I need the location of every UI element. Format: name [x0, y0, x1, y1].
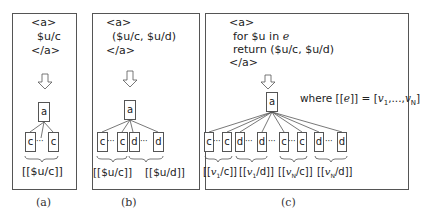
tree-node-root: a [38, 102, 50, 122]
down-arrow-icon [123, 71, 137, 87]
code-text: for $u in [233, 30, 283, 43]
code-line: $u/c [37, 31, 61, 43]
code-line: ($u/c, $u/d) [112, 31, 176, 43]
ellipsis: ··· [107, 136, 115, 148]
tree-node: d [337, 132, 347, 152]
code-line: <a> [31, 17, 56, 29]
tree-node: d [257, 132, 267, 152]
tree-node: d [129, 132, 140, 152]
tree-node: d [235, 132, 245, 152]
code-line: </a> [229, 57, 258, 69]
caption-a: (a) [36, 196, 51, 209]
code-line: return ($u/c, $u/d) [233, 44, 334, 56]
tree-node: c [48, 132, 59, 152]
down-arrow-icon [261, 75, 275, 89]
code-variable: e [283, 30, 290, 43]
down-arrow-icon [38, 74, 52, 89]
code-line: <a> [229, 17, 254, 29]
ellipsis: ··· [325, 136, 333, 148]
group-label: [[vN/d]] [317, 166, 353, 182]
ellipsis: ··· [36, 136, 44, 148]
code-line: for $u in e [233, 31, 289, 43]
tree-node-root: a [124, 100, 136, 120]
tree-node: c [25, 132, 36, 152]
caption-c: (c) [281, 196, 296, 209]
code-line: </a> [31, 45, 60, 57]
code-line: <a> [106, 17, 131, 29]
ellipsis: ··· [140, 136, 148, 148]
ellipsis: ··· [268, 136, 276, 148]
ellipsis: ··· [245, 136, 253, 148]
ellipsis: ··· [288, 136, 296, 148]
where-clause: where [[e]] = [v1,...,vN] [300, 92, 420, 109]
code-line: </a> [106, 45, 135, 57]
group-label: [[v1/c]] [203, 166, 237, 182]
group-label: [[$u/c]] [93, 166, 132, 178]
group-label: [[$u/d]] [145, 166, 185, 178]
tree-node: d [314, 132, 324, 152]
tree-node: d [153, 132, 164, 152]
ellipsis: ··· [213, 136, 221, 148]
tree-node: c [117, 132, 128, 152]
group-label: [[vN/c]] [278, 166, 313, 182]
tree-node: c [297, 132, 307, 152]
group-label: [[$u/c]] [22, 166, 63, 178]
tree-node-root: a [266, 92, 278, 112]
group-label: [[v1/d]] [239, 166, 274, 182]
caption-b: (b) [121, 196, 137, 209]
tree-node: c [222, 132, 232, 152]
